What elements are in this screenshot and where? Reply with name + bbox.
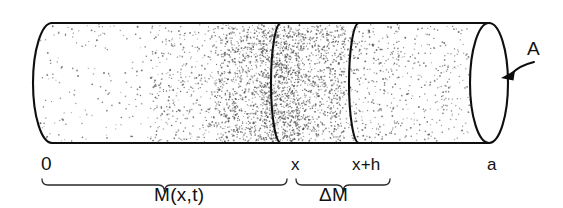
- label-delta-mass: ΔM: [319, 184, 348, 205]
- label-area-A: A: [527, 38, 540, 59]
- label-x-plus-h: x+h: [352, 155, 380, 174]
- label-x: x: [291, 155, 300, 174]
- label-total-mass: M(x,t): [154, 184, 204, 205]
- label-origin: 0: [41, 153, 52, 174]
- label-a: a: [487, 155, 497, 174]
- diagram-canvas: 0 x x+h a A M(x,t) ΔM: [0, 0, 563, 208]
- cylinder-diagram-figure: 0 x x+h a A M(x,t) ΔM: [0, 0, 563, 208]
